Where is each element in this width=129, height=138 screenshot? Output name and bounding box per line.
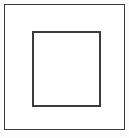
outer-rectangle (4, 4, 125, 130)
figure-canvas (0, 0, 129, 138)
inner-rectangle (32, 31, 101, 107)
